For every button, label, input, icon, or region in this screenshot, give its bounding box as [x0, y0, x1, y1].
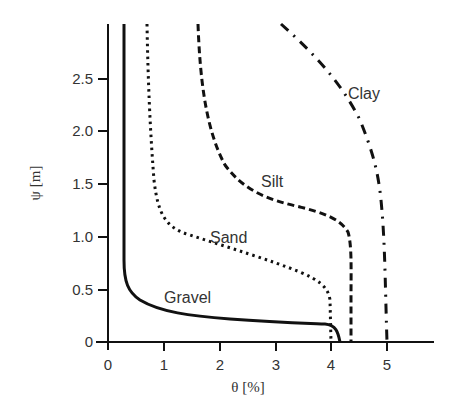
y-tick-labels: 0 0.5 1.0 1.5 2.0 2.5 — [72, 70, 93, 350]
y-tick-0: 0 — [85, 333, 93, 350]
y-tick-0-5: 0.5 — [72, 281, 93, 298]
clay-label: Clay — [348, 85, 380, 102]
y-tick-1-5: 1.5 — [72, 175, 93, 192]
soil-water-retention-chart: 0 1 2 3 4 5 0 0.5 1.0 1.5 2.0 2.5 θ [%] … — [0, 0, 453, 417]
y-axis-title: ψ [m] — [27, 166, 43, 201]
clay-curve — [281, 24, 387, 342]
y-tick-2-5: 2.5 — [72, 70, 93, 87]
gravel-label: Gravel — [164, 289, 211, 306]
x-tick-labels: 0 1 2 3 4 5 — [104, 356, 391, 373]
y-tick-2-0: 2.0 — [72, 122, 93, 139]
x-tick-3: 3 — [272, 356, 280, 373]
y-tick-1-0: 1.0 — [72, 228, 93, 245]
x-tick-5: 5 — [383, 356, 391, 373]
x-tick-4: 4 — [327, 356, 335, 373]
x-tick-2: 2 — [216, 356, 224, 373]
sand-label: Sand — [210, 229, 247, 246]
x-tick-0: 0 — [104, 356, 112, 373]
x-tick-1: 1 — [160, 356, 168, 373]
x-axis-title: θ [%] — [231, 379, 264, 395]
gravel-curve — [124, 24, 340, 342]
silt-label: Silt — [261, 173, 284, 190]
